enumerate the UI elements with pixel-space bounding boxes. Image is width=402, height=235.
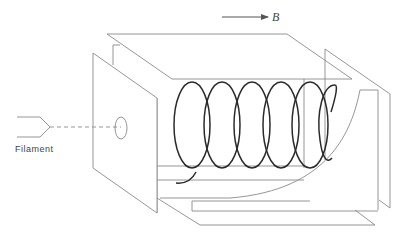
collector bbox=[160, 90, 360, 198]
helix bbox=[174, 82, 336, 183]
top-plate bbox=[107, 34, 352, 79]
bottom-plates bbox=[157, 198, 378, 225]
field-arrow: B bbox=[222, 10, 280, 24]
apparatus-diagram: B bbox=[0, 0, 402, 235]
filament-label: Filament bbox=[15, 144, 54, 154]
field-label: B bbox=[272, 10, 280, 24]
inner-box bbox=[157, 79, 325, 180]
filament bbox=[17, 117, 50, 137]
diagram-canvas: B bbox=[0, 0, 402, 235]
aperture bbox=[115, 117, 127, 139]
